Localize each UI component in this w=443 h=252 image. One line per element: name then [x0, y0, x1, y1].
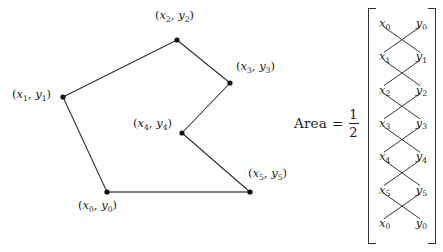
equals-sign: =	[332, 117, 343, 131]
polygon-vertex-dot-v2	[174, 37, 179, 42]
matrix-row: x3y3	[379, 118, 427, 130]
matrix-cell-x-5: x5	[379, 185, 390, 197]
fraction-denominator: 2	[347, 125, 359, 139]
matrix-cell-x-2: x2	[379, 85, 390, 97]
polygon-edge-v0-v1	[63, 97, 107, 192]
matrix-row: x0y0	[379, 18, 427, 30]
matrix-cell-y-1: y1	[416, 51, 427, 63]
shoelace-matrix: x0y0x1y1x2y2x3y3x4y4x5y5x0y0	[368, 8, 436, 244]
matrix-bracket-left	[368, 8, 376, 244]
matrix-bracket-right	[428, 8, 436, 244]
matrix-cell-y-0: y0	[416, 18, 427, 30]
polygon-edge-v1-v2	[63, 40, 177, 97]
area-formula-block: Area = 1 2 x0y0x1y1x2y2x3y3x4y4x5y5x0y0	[292, 0, 443, 252]
matrix-row: x2y2	[379, 85, 427, 97]
matrix-row: x0y0	[379, 218, 427, 230]
matrix-cell-y-5: y5	[416, 185, 427, 197]
one-half-fraction: 1 2	[347, 108, 359, 139]
fraction-bar	[349, 123, 359, 124]
matrix-cell-y-3: y3	[416, 118, 427, 130]
polygon-edge-v2-v3	[177, 40, 230, 83]
matrix-row: x4y4	[379, 151, 427, 163]
polygon-vertex-dot-v3	[227, 80, 232, 85]
polygon-figure: (x0, y0)(x1, y1)(x2, y2)(x3, y3)(x4, y4)…	[0, 0, 290, 252]
vertex-label-v4: (x4, y4)	[133, 118, 172, 130]
matrix-cell-x-3: x3	[379, 118, 390, 130]
area-label: Area	[294, 117, 327, 131]
matrix-cell-y-4: y4	[416, 151, 427, 163]
polygon-vertex-dot-v4	[179, 130, 184, 135]
vertex-label-v1: (x1, y1)	[12, 89, 51, 101]
vertex-label-v5: (x5, y5)	[248, 168, 287, 180]
polygon-vertex-dot-v1	[60, 94, 65, 99]
matrix-cell-y-2: y2	[416, 85, 427, 97]
matrix-row: x5y5	[379, 185, 427, 197]
matrix-cell-x-1: x1	[379, 51, 390, 63]
vertex-label-v3: (x3, y3)	[236, 61, 275, 73]
polygon-edge-v3-v4	[182, 83, 230, 133]
polygon-vertex-dot-v0	[104, 189, 109, 194]
matrix-cell-y-0: y0	[416, 218, 427, 230]
matrix-cell-x-4: x4	[379, 151, 390, 163]
vertex-label-v2: (x2, y2)	[155, 10, 194, 22]
vertex-label-v0: (x0, y0)	[78, 200, 117, 212]
fraction-numerator: 1	[347, 108, 359, 122]
matrix-row: x1y1	[379, 51, 427, 63]
matrix-cell-x-0: x0	[379, 218, 390, 230]
shoelace-formula-diagram: (x0, y0)(x1, y1)(x2, y2)(x3, y3)(x4, y4)…	[0, 0, 443, 252]
matrix-cell-x-0: x0	[379, 18, 390, 30]
polygon-edge-v4-v5	[182, 133, 250, 192]
polygon-vertex-dot-v5	[247, 189, 252, 194]
area-expression: Area = 1 2	[294, 108, 360, 139]
